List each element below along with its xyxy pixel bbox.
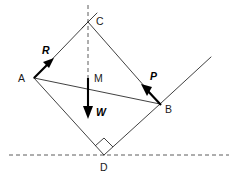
edge-a-d (34, 78, 104, 155)
centre-of-mass-label-m: M (94, 73, 103, 84)
edge-b-d (104, 104, 160, 155)
point-label-c: C (96, 16, 104, 27)
force-label-w: W (96, 107, 106, 118)
point-label-a: A (18, 73, 25, 84)
vector-w-arrowhead (83, 106, 93, 119)
force-label-r: R (42, 45, 50, 56)
point-label-d: D (100, 162, 108, 173)
right-angle-marker-d (95, 138, 113, 147)
incline-extension-line (160, 57, 211, 104)
force-label-p: P (150, 71, 157, 82)
point-label-b: B (165, 104, 172, 115)
figure-canvas (0, 0, 236, 176)
cb-extension-above-c (82, 13, 97, 28)
force-diagram: A B C D R P W M (0, 0, 236, 176)
